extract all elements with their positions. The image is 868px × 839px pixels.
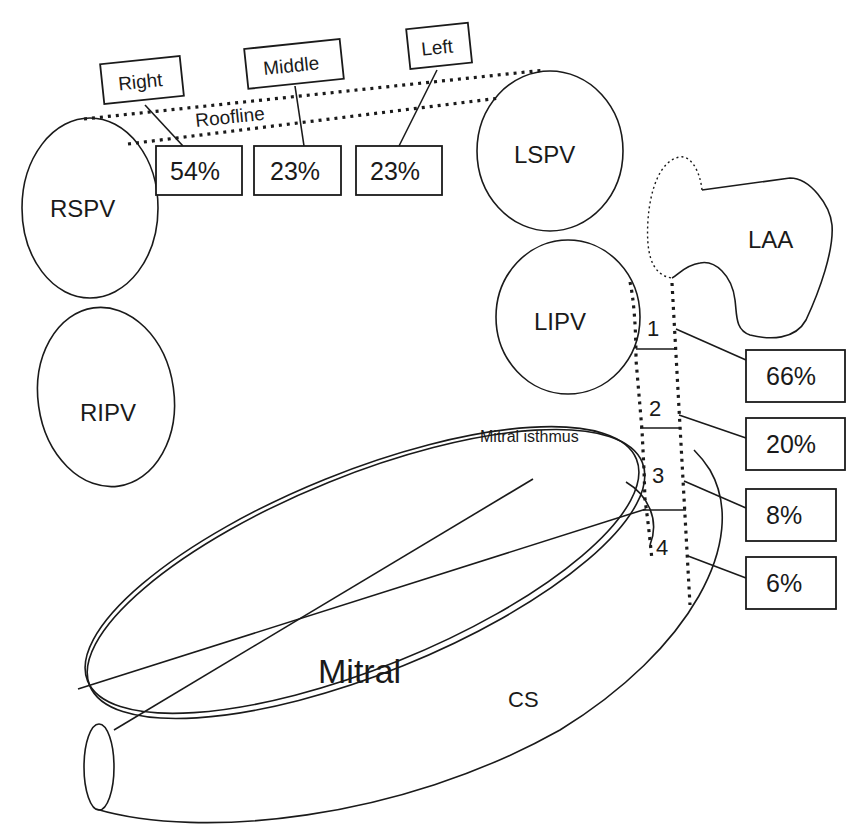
lipv-label: LIPV [534,308,586,335]
mitral-annulus-rim [53,371,680,778]
isthmus-segment-1: 1 [647,316,659,341]
mitral-isthmus-label: Mitral isthmus [480,428,579,445]
mitral-label: Mitral [318,652,401,690]
cs-ostium [84,724,114,810]
cs-label: CS [508,687,539,712]
ripv-ellipse [26,298,186,495]
isthmus-value-1: 66% [766,362,816,390]
leader-segment-4 [688,556,746,578]
roof-value-left: 23% [370,157,420,185]
isthmus-segment-3: 3 [652,463,664,488]
lspv-label: LSPV [514,141,575,168]
leader-segment-2 [679,415,746,438]
roof-name-box-middle: Middle [244,39,344,89]
left-atrium-diagram: Roofline RSPV RIPV LSPV LIPV LAA Mitral … [0,0,868,839]
laa-outline [672,178,832,338]
ripv-label: RIPV [80,399,136,426]
isthmus-segment-2: 2 [649,396,661,421]
leader-segment-1 [676,329,746,360]
isthmus-value-3: 8% [766,501,802,529]
roof-value-middle: 23% [270,157,320,185]
leader-segment-3 [684,481,746,508]
mitral-axis-2 [114,479,533,730]
roofline-lower-boundary [128,98,500,144]
isthmus-segment-4: 4 [656,535,668,560]
laa-dotted-ostium [648,157,702,278]
roof-name-box-right: Right [100,56,184,104]
rspv-label: RSPV [50,195,115,222]
isthmus-value-2: 20% [766,430,816,458]
roof-name-box-left: Left [406,23,472,69]
laa-label: LAA [748,226,793,253]
roof-value-right: 54% [170,157,220,185]
roof-name-left: Left [420,35,454,59]
isthmus-value-4: 6% [766,569,802,597]
